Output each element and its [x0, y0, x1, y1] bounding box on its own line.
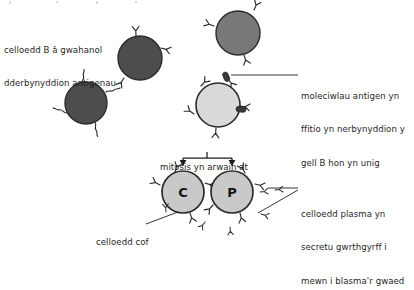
label-antigen-line3: gell B hon yn unig [301, 158, 405, 169]
leader-line-memory [146, 212, 178, 224]
b-cell-dark-upper [204, 0, 261, 65]
label-plasma-line3: mewn i blasma'r gwaed [301, 276, 404, 287]
scan-artifact-top [10, 1, 136, 4]
memory-cell-letter: C [173, 185, 193, 200]
label-antigen: moleciwlau antigen yn ffitio yn nerbynyd… [301, 68, 405, 181]
label-memory-cells: celloedd cof [96, 214, 149, 259]
plasma-cell-letter: P [222, 185, 242, 200]
label-plasma-line2: secretu gwrthgyrff i [301, 242, 404, 253]
label-plasma-cells: celloedd plasma yn secretu gwrthgyrff i … [301, 186, 404, 290]
label-antigen-line2: ffitio yn nerbynyddion y [301, 124, 405, 135]
label-b-cells-line2: dderbynyddion antigenau [4, 78, 116, 89]
label-mitosis: mitosis yn arwain at [160, 139, 248, 184]
label-memory-line1: celloedd cof [96, 237, 149, 248]
leader-line-plasma-b [258, 190, 298, 213]
label-mitosis-line1: mitosis yn arwain at [160, 162, 248, 173]
cell-body [118, 36, 162, 80]
label-b-cells-line1: celloedd B â gwahanol [4, 45, 116, 56]
cell-body [216, 11, 260, 55]
cell-body [196, 83, 240, 127]
b-cell-dark-middle [116, 26, 171, 88]
label-b-cells: celloedd B â gwahanol dderbynyddion anti… [4, 22, 116, 101]
label-antigen-line1: moleciwlau antigen yn [301, 91, 405, 102]
label-plasma-line1: celloedd plasma yn [301, 209, 404, 220]
antigen-molecule-right [236, 106, 247, 113]
antigen-molecule-top [222, 71, 231, 82]
